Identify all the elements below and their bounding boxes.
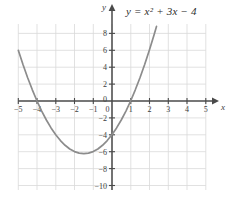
x-axis bbox=[18, 98, 219, 105]
x-tick-label: −2 bbox=[70, 105, 79, 114]
y-tick-label: −2 bbox=[98, 114, 107, 123]
coordinate-plane: −5 −4 −3 −2 −1 0 1 2 3 4 5 8 6 4 2 0 −2 … bbox=[0, 0, 232, 198]
x-tick-label: 4 bbox=[185, 105, 189, 114]
x-tick-label: −5 bbox=[14, 105, 23, 114]
y-tick-label-origin: 0 bbox=[103, 95, 107, 104]
x-tick-label: 2 bbox=[148, 105, 152, 114]
y-tick-label: 2 bbox=[103, 80, 107, 89]
y-tick-label: −10 bbox=[94, 182, 107, 191]
x-axis-label: x bbox=[220, 102, 225, 112]
equation-annotation: y = x² + 3x − 4 bbox=[126, 5, 197, 17]
x-tick-label: −1 bbox=[89, 105, 98, 114]
x-tick-label: 3 bbox=[166, 105, 170, 114]
y-tick-label: 8 bbox=[103, 29, 107, 38]
x-tick-label: 5 bbox=[204, 105, 208, 114]
y-tick-label: −4 bbox=[98, 131, 107, 140]
y-tick-label: −6 bbox=[98, 148, 107, 157]
y-tick-label: 4 bbox=[103, 63, 107, 72]
y-axis-label: y bbox=[101, 2, 106, 12]
y-axis bbox=[109, 4, 116, 190]
y-tick-label: 6 bbox=[103, 46, 107, 55]
x-tick-label: −3 bbox=[52, 105, 61, 114]
graph-figure: −5 −4 −3 −2 −1 0 1 2 3 4 5 8 6 4 2 0 −2 … bbox=[0, 0, 232, 198]
x-tick-label-origin: 0 bbox=[106, 105, 110, 114]
y-tick-label: −8 bbox=[98, 165, 107, 174]
x-tick-label: 1 bbox=[129, 105, 133, 114]
